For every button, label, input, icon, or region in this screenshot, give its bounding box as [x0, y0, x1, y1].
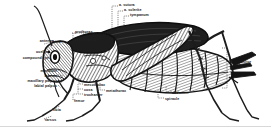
label-tibia: tibia	[53, 108, 61, 112]
label-abdomen: abdomen	[172, 91, 189, 95]
grasshopper-anatomy-diagram: a. suturaa. scleritetympanumprothoraxhea…	[0, 0, 271, 127]
label-coxa: coxa	[84, 88, 93, 92]
label-tarsus: tarsus	[45, 118, 56, 122]
label-trochanter: trochanter	[84, 93, 103, 97]
label-tympanum: tympanum	[130, 13, 149, 17]
label-mandible: mandible	[41, 69, 57, 73]
label-compound-eye: compound eye	[23, 56, 49, 60]
label-ocellus: ocellus	[36, 50, 49, 54]
label-maxillary-palpus: maxillary palpus	[28, 79, 57, 83]
label-labrum: labrum	[45, 74, 57, 78]
label-ovipositor: ovipositor	[233, 60, 251, 64]
label-a-sutura: a. sutura	[119, 3, 135, 7]
label-metathorax: metathorax	[106, 89, 126, 93]
label-femur: femur	[74, 99, 84, 103]
label-prothorax: prothorax	[75, 30, 93, 34]
label-antenna: antenna	[40, 39, 54, 43]
label-a-sclerite: a. sclerite	[124, 8, 141, 12]
label-mesothorax: mesothorax	[84, 83, 105, 87]
label-spiracle: spiracle	[165, 97, 179, 101]
label-labial-palpus: labial palpus	[34, 84, 57, 88]
label-layer: a. suturaa. scleritetympanumprothoraxhea…	[0, 0, 271, 127]
